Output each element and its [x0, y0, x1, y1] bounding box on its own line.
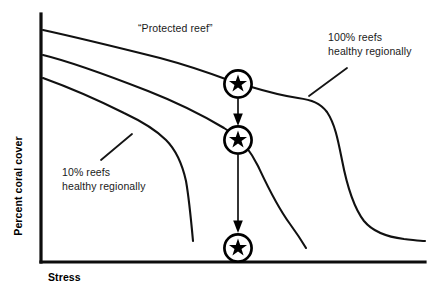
annotation-protected-reef: “Protected reef” [138, 22, 213, 36]
arrow-star1-to-star2-head [233, 114, 243, 127]
star-marker-bottom [224, 234, 251, 261]
x-axis-title: Stress [48, 271, 81, 283]
arrow-star2-to-star3-head [233, 221, 243, 234]
leader-line-10-reefs [101, 134, 132, 160]
annotation-10-percent-reefs: 10% reefs healthy regionally [62, 166, 146, 193]
coral-reef-resilience-figure: “Protected reef” 100% reefs healthy regi… [0, 0, 443, 299]
leader-line-100-reefs [309, 68, 347, 96]
curve-bottom [43, 78, 193, 241]
annotation-100-percent-reefs: 100% reefs healthy regionally [328, 31, 412, 58]
star-marker-middle [224, 126, 251, 153]
y-axis-title: Percent coral cover [12, 131, 24, 241]
star-marker-top [224, 70, 251, 97]
